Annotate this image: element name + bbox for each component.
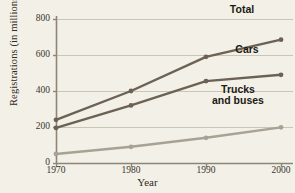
data-point bbox=[204, 135, 209, 140]
series-label-cars: Cars bbox=[218, 44, 276, 55]
series-label-trucks-and-buses: Trucks and buses bbox=[190, 84, 286, 106]
x-tick-label-1980: 1980 bbox=[111, 165, 151, 175]
data-point bbox=[54, 152, 59, 157]
x-axis-label: Year bbox=[0, 176, 295, 188]
data-point bbox=[54, 126, 59, 131]
data-point bbox=[54, 117, 59, 122]
data-point bbox=[129, 89, 134, 94]
line-chart: Registrations (in millions) Year 0 200 4… bbox=[0, 0, 295, 193]
data-point bbox=[279, 37, 284, 42]
y-tick-label-200: 200 bbox=[24, 121, 50, 131]
x-tick-label-2000: 2000 bbox=[261, 165, 295, 175]
data-point bbox=[279, 125, 284, 130]
y-tick-label-400: 400 bbox=[24, 85, 50, 95]
y-tick-label-600: 600 bbox=[24, 49, 50, 59]
y-axis-label: Registrations (in millions) bbox=[8, 0, 19, 125]
x-tick-label-1990: 1990 bbox=[186, 165, 226, 175]
y-tick-label-800: 800 bbox=[24, 13, 50, 23]
x-tick-label-1970: 1970 bbox=[36, 165, 76, 175]
series-label-total: Total bbox=[212, 4, 272, 15]
series-line-2 bbox=[56, 127, 281, 154]
data-point bbox=[129, 103, 134, 108]
series-label-trucks-line2: and buses bbox=[212, 94, 264, 106]
data-point bbox=[204, 54, 209, 59]
data-point bbox=[204, 79, 209, 84]
data-point bbox=[279, 72, 284, 77]
data-point bbox=[129, 144, 134, 149]
